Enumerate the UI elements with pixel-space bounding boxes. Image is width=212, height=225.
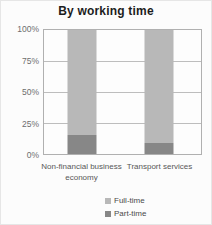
legend-item: Part-time	[105, 209, 146, 218]
category-label: Transport services	[115, 161, 205, 172]
legend-label: Full-time	[114, 196, 145, 205]
legend-swatch-icon	[105, 211, 111, 217]
legend: Full-timePart-time	[105, 196, 146, 222]
legend-label: Part-time	[114, 209, 146, 218]
category-label: Non-financial business economy	[36, 161, 126, 183]
bar-segment-part-time	[145, 143, 174, 154]
y-tick-label: 0%	[1, 150, 39, 160]
y-tick-label: 100%	[1, 24, 39, 34]
working-time-chart: By working time 100%75%50%25%0% Non-fina…	[0, 0, 212, 225]
plot-area	[43, 29, 202, 155]
chart-title: By working time	[1, 4, 211, 18]
bar-segment-full-time	[67, 30, 96, 135]
bar-segment-part-time	[67, 135, 96, 154]
y-tick-label: 25%	[1, 119, 39, 129]
y-tick-label: 75%	[1, 56, 39, 66]
y-tick-label: 50%	[1, 87, 39, 97]
legend-swatch-icon	[105, 198, 111, 204]
legend-item: Full-time	[105, 196, 146, 205]
stacked-bar	[145, 30, 174, 154]
bar-segment-full-time	[145, 30, 174, 143]
stacked-bar	[67, 30, 96, 154]
